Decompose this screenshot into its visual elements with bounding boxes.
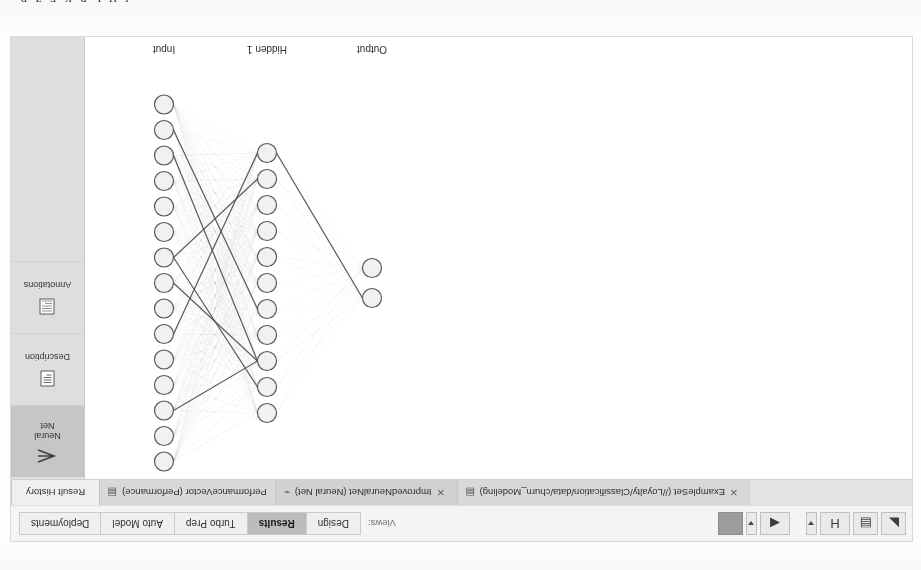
table-icon: ▤ xyxy=(466,487,475,498)
view-tab-turbo-prep[interactable]: Turbo Prep xyxy=(174,512,247,535)
neural-net-icon xyxy=(37,446,59,462)
run-process-button[interactable]: ◀ xyxy=(760,512,790,535)
stop-process-button[interactable] xyxy=(718,512,743,535)
layer-label-hidden-1: Hidden 1 xyxy=(247,44,287,55)
result-tab-exampleset[interactable]: ✕ ExampleSet (//Loyalty/Classification/d… xyxy=(457,480,751,505)
tab-strip-filler xyxy=(750,480,912,505)
open-process-button[interactable]: ▤ xyxy=(853,512,878,535)
side-item-label: Annotations xyxy=(24,280,72,290)
view-tab-auto-model[interactable]: Auto Model xyxy=(100,512,174,535)
new-process-button[interactable]: ◣ xyxy=(881,512,906,535)
table-icon: ▤ xyxy=(108,487,117,498)
layer-label-output: Output xyxy=(357,44,387,55)
rotated-application-window: ◣ ▤ H ◀ Views: Design Results Turbo Prep… xyxy=(10,36,913,542)
view-tab-results[interactable]: Results xyxy=(247,512,306,535)
view-tab-deployments[interactable]: Deployments xyxy=(19,512,100,535)
toolbar-button-group: ◣ ▤ H ◀ xyxy=(718,512,912,535)
results-content: Input Hidden 1 Output NeuralNet xyxy=(11,37,912,479)
result-tab-strip: ✕ ExampleSet (//Loyalty/Classification/d… xyxy=(11,479,912,505)
result-tab-label: ExampleSet (//Loyalty/Classification/dat… xyxy=(480,487,726,498)
annotations-icon: notes xyxy=(40,296,56,315)
view-tab-design[interactable]: Design xyxy=(306,512,361,535)
model-icon: ⌁ xyxy=(284,487,290,498)
neural-net-canvas[interactable]: Input Hidden 1 Output xyxy=(85,37,912,479)
folder-icon: ▤ xyxy=(860,517,872,530)
scanned-page: ɪ ʜ ʟ ʀ ᴋ ᴇ ᴢ ʀ ◣ ▤ H ◀ Views: Design xyxy=(0,0,921,570)
page-icon: ◣ xyxy=(889,517,899,530)
main-toolbar: ◣ ▤ H ◀ Views: Design Results Turbo Prep… xyxy=(11,505,912,541)
result-tab-performancevector[interactable]: PerformanceVector (Performance) ▤ xyxy=(99,480,275,505)
rapidminer-window: ◣ ▤ H ◀ Views: Design Results Turbo Prep… xyxy=(10,36,913,542)
bleed-glyphs: ɪ ʜ ʟ ʀ ᴋ ᴇ ᴢ ʀ xyxy=(0,0,921,8)
side-item-label: Description xyxy=(25,352,70,362)
close-icon[interactable]: ✕ xyxy=(437,487,445,498)
description-icon xyxy=(40,368,55,387)
run-dropdown-button[interactable] xyxy=(746,512,757,535)
views-switcher: Views: Design Results Turbo Prep Auto Mo… xyxy=(19,512,396,535)
layer-label-input: Input xyxy=(153,44,175,55)
chevron-down-icon xyxy=(809,522,815,526)
save-icon: H xyxy=(830,517,839,530)
result-side-panel: NeuralNet Description xyxy=(11,37,85,479)
save-dropdown-button[interactable] xyxy=(806,512,817,535)
result-tab-result-history[interactable]: Result History xyxy=(11,480,99,505)
save-process-button[interactable]: H xyxy=(820,512,850,535)
side-item-description[interactable]: Description xyxy=(11,333,84,405)
play-icon: ◀ xyxy=(770,517,780,530)
svg-text:notes: notes xyxy=(43,298,53,303)
views-label: Views: xyxy=(368,518,396,529)
side-item-annotations[interactable]: notes Annotations xyxy=(11,261,84,333)
side-panel-spacer xyxy=(11,37,84,261)
result-tab-improvedneuralnet[interactable]: ✕ ImprovedNeuralNet (Neural Net) ⌁ xyxy=(275,480,457,505)
result-tab-label: PerformanceVector (Performance) xyxy=(122,487,267,498)
page-bleed-through: ɪ ʜ ʟ ʀ ᴋ ᴇ ᴢ ʀ xyxy=(0,0,921,16)
neural-net-graph xyxy=(85,37,912,479)
close-icon[interactable]: ✕ xyxy=(730,487,738,498)
side-item-label: NeuralNet xyxy=(34,420,61,441)
chevron-down-icon xyxy=(749,522,755,526)
result-tab-label: ImprovedNeuralNet (Neural Net) xyxy=(295,487,432,498)
side-item-neural-net[interactable]: NeuralNet xyxy=(11,405,84,477)
